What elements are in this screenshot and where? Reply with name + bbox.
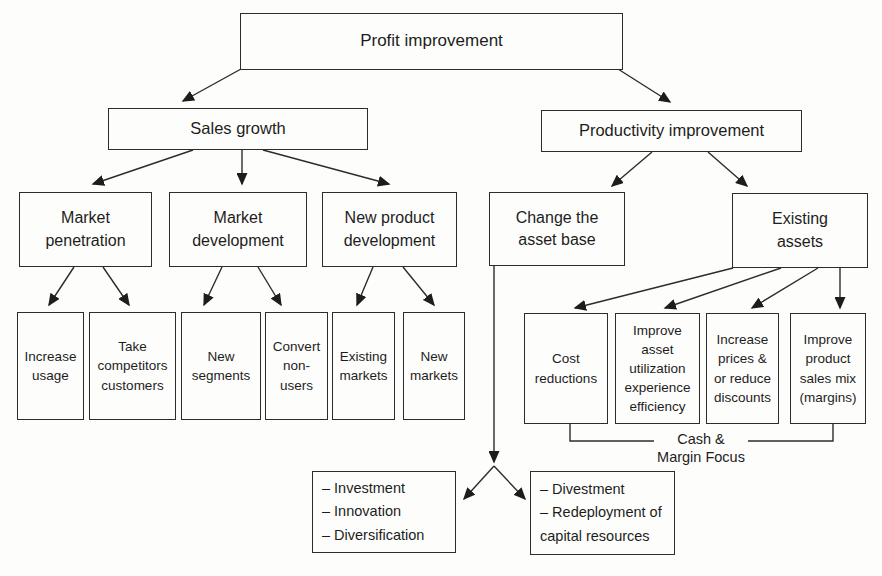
arrows-from-market-development <box>204 267 281 305</box>
arrows-change-asset-base-split <box>464 266 525 499</box>
node-market-development: Market development <box>169 192 307 267</box>
arrows-from-existing-assets <box>575 268 840 308</box>
node-improve-asset-utilization: Improve asset utilization experience eff… <box>615 313 700 424</box>
arrows-from-productivity <box>612 152 747 186</box>
node-sales-growth: Sales growth <box>108 108 368 150</box>
node-change-the-asset-base: Change the asset base <box>489 192 625 266</box>
arrows-from-new-product-development <box>357 267 434 305</box>
node-divestment-redeployment: – Divestment – Redeployment of capital r… <box>530 471 675 555</box>
node-new-segments: New segments <box>181 312 261 420</box>
node-existing-markets: Existing markets <box>332 312 395 420</box>
node-existing-assets: Existing assets <box>732 193 868 268</box>
profit-improvement-diagram: Profit improvement Sales growth Producti… <box>0 0 882 576</box>
node-profit-improvement: Profit improvement <box>240 13 623 70</box>
arrows-from-sales-growth <box>93 150 389 184</box>
node-new-markets: New markets <box>403 312 465 420</box>
cash-margin-focus-label: Cash & Margin Focus <box>641 430 761 466</box>
arrows-from-market-penetration <box>49 267 129 305</box>
node-new-product-development: New product development <box>322 192 457 267</box>
node-increase-prices-reduce-discounts: Increase prices & or reduce discounts <box>706 313 779 424</box>
node-investment-innovation-diversification: – Investment – Innovation – Diversificat… <box>312 471 456 553</box>
node-cost-reductions: Cost reductions <box>524 313 608 424</box>
node-market-penetration: Market penetration <box>19 192 152 267</box>
node-convert-non-users: Convert non- users <box>265 312 328 420</box>
arrows-from-profit <box>183 69 670 102</box>
node-increase-usage: Increase usage <box>17 312 84 420</box>
node-productivity-improvement: Productivity improvement <box>541 110 802 152</box>
node-improve-product-sales-mix: Improve product sales mix (margins) <box>790 313 866 424</box>
node-take-competitors-customers: Take competitors customers <box>89 312 176 420</box>
